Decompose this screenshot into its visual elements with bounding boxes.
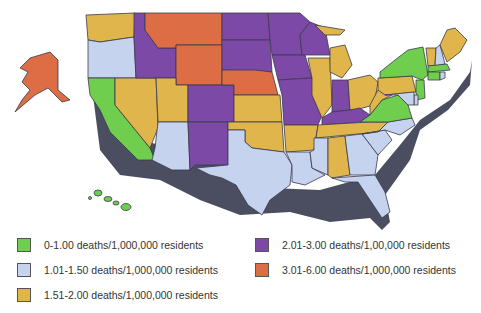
legend-item-2: 1.01-1.50 deaths/1,000,000 residents [17,263,218,277]
legend-swatch-3 [17,288,31,302]
legend-label-1: 0-1.00 deaths/1,000,000 residents [44,239,203,251]
legend-item-3: 1.51-2.00 deaths/1,000,000 residents [17,288,218,302]
legend-label-5: 3.01-6.00 deaths/1,000,000 residents [282,264,456,276]
legend-swatch-4 [255,238,269,252]
legend-swatch-2 [17,263,31,277]
legend-label-2: 1.01-1.50 deaths/1,000,000 residents [44,264,218,276]
legend-item-4: 2.01-3.00 deaths/1,00,000 residents [255,238,450,252]
legend-label-3: 1.51-2.00 deaths/1,000,000 residents [44,289,218,301]
legend-label-4: 2.01-3.00 deaths/1,00,000 residents [282,239,450,251]
legend-item-1: 0-1.00 deaths/1,000,000 residents [17,238,203,252]
legend-item-5: 3.01-6.00 deaths/1,000,000 residents [255,263,456,277]
legend-swatch-5 [255,263,269,277]
legend: 0-1.00 deaths/1,000,000 residents 1.01-1… [0,0,481,313]
legend-swatch-1 [17,238,31,252]
